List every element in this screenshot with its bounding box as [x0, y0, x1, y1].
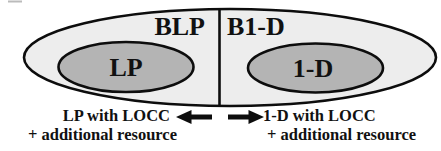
left-arrow-icon	[176, 110, 212, 124]
left-caption-line2: + additional resource	[28, 125, 177, 144]
right-caption-line2: + additional resource	[267, 125, 416, 144]
left-caption-line1: LP with LOCC	[63, 106, 170, 125]
set-label-lp: LP	[109, 53, 142, 82]
scan-artifact	[8, 1, 22, 3]
region-label-b1d: B1-D	[227, 12, 285, 41]
right-arrow-icon	[228, 110, 264, 124]
set-inclusion-figure: BLP B1-D LP 1-D LP with LOCC + additiona…	[0, 0, 441, 151]
region-label-blp: BLP	[154, 12, 205, 41]
right-caption-line1: 1-D with LOCC	[263, 106, 376, 125]
set-label-1d: 1-D	[293, 54, 333, 83]
